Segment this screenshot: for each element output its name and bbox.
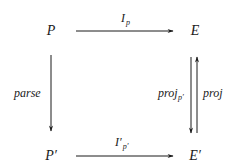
node-e-prime: E′ [188, 148, 202, 163]
node-e: E [190, 23, 200, 38]
diagram-canvas: P E P′ E′ Ip I′p′ parse projp′ proj [0, 0, 237, 168]
arrow-right-up-label: proj [202, 86, 223, 100]
commutative-diagram: P E P′ E′ Ip I′p′ parse projp′ proj [0, 0, 237, 168]
node-p: P [46, 23, 56, 38]
node-p-prime: P′ [44, 148, 58, 163]
arrow-left-label: parse [13, 86, 41, 100]
arrow-right-down-label: projp′ [157, 86, 184, 102]
arrow-bottom-label: I′p′ [114, 135, 129, 151]
arrow-top-label: Ip [120, 11, 130, 27]
